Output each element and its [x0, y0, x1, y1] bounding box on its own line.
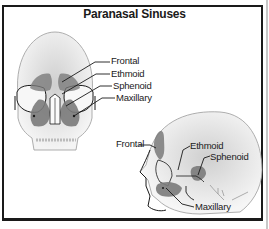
- side-skull: [139, 112, 262, 214]
- front-label-frontal: Frontal: [111, 55, 139, 66]
- side-label-ethmoid: Ethmoid: [190, 140, 223, 151]
- front-label-ethmoid: Ethmoid: [111, 68, 144, 79]
- front-label-sphenoid: Sphenoid: [113, 80, 152, 91]
- front-skull: [15, 32, 115, 150]
- side-label-maxillary: Maxillary: [195, 201, 231, 212]
- side-label-sphenoid: Sphenoid: [210, 151, 249, 162]
- side-label-frontal: Frontal: [116, 138, 144, 149]
- skull-illustrations: [0, 0, 269, 229]
- front-label-maxillary: Maxillary: [116, 92, 152, 103]
